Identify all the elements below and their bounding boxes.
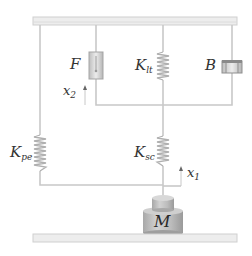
- label-k-sc-main: K: [134, 143, 145, 161]
- top-plate: [33, 17, 237, 25]
- mechanical-diagram: F Klt B x2 Kpe Ksc x1 M: [0, 0, 252, 256]
- label-k-sc-sub: sc: [145, 152, 155, 162]
- label-force-main: F: [70, 55, 80, 73]
- label-k-pe-sub: pe: [21, 152, 32, 162]
- label-k-sc: Ksc: [134, 145, 155, 162]
- bottom-plate: [33, 234, 237, 242]
- force-generator-F: [89, 52, 103, 79]
- label-mass: M: [154, 214, 170, 230]
- label-force: F: [70, 57, 80, 72]
- label-x2-sub: 2: [70, 90, 76, 100]
- connection-lines: [40, 25, 232, 196]
- label-mass-main: M: [154, 212, 170, 231]
- label-x1-sub: 1: [194, 172, 200, 182]
- spring-k-lt: [157, 52, 169, 80]
- x2-arrow: [83, 85, 87, 105]
- damper-B: [222, 60, 242, 73]
- label-k-pe-main: K: [10, 143, 21, 161]
- label-k-lt-main: K: [135, 56, 146, 74]
- spring-k-pe: [34, 135, 46, 171]
- spring-k-sc: [157, 136, 169, 166]
- label-x2: x2: [63, 84, 76, 100]
- label-k-lt-sub: lt: [146, 65, 153, 75]
- label-x1: x1: [187, 166, 200, 182]
- diagram-canvas: [0, 0, 252, 256]
- label-damper-main: B: [205, 56, 216, 74]
- label-damper: B: [205, 58, 216, 73]
- x1-arrow: [179, 166, 183, 186]
- label-k-pe: Kpe: [10, 145, 32, 162]
- label-k-lt: Klt: [135, 58, 153, 75]
